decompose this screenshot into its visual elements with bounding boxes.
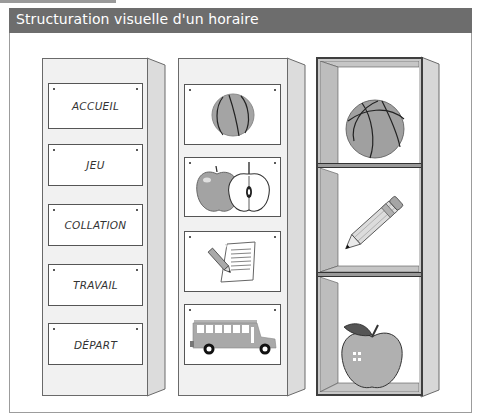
pin-dot [53, 209, 55, 211]
pin-dot [136, 209, 138, 211]
pin-dot [53, 149, 55, 151]
compartment-interior [320, 168, 419, 272]
word-card-collation[interactable]: COLLATION [48, 204, 143, 246]
card-label: DÉPART [49, 339, 142, 351]
picture-card-basketball[interactable] [184, 84, 281, 145]
pin-dot [136, 269, 138, 271]
picture-card-apple[interactable] [184, 157, 281, 217]
word-card-depart[interactable]: DÉPART [48, 323, 143, 365]
word-card-jeu[interactable]: JEU [48, 144, 143, 186]
pin-dot [53, 269, 55, 271]
picture-card-bus[interactable] [184, 304, 281, 365]
compartment-interior [320, 61, 419, 164]
pencil-paper-icon [185, 232, 282, 293]
card-label: TRAVAIL [49, 279, 142, 291]
basketball-icon [185, 85, 282, 146]
school-bus-icon [185, 305, 282, 366]
column-side-face [146, 57, 168, 399]
pin-dot [53, 88, 55, 90]
pin-dot [136, 88, 138, 90]
top-tab-strip [0, 0, 116, 3]
column-side-face [286, 57, 308, 399]
card-label: JEU [49, 159, 142, 171]
pin-dot [136, 328, 138, 330]
compartment-interior [320, 277, 419, 392]
card-label: COLLATION [49, 219, 142, 231]
figure-title: Structuration visuelle d'un horaire [16, 11, 259, 27]
basketball-icon [346, 100, 404, 158]
figure-header: Structuration visuelle d'un horaire [9, 8, 472, 33]
word-card-accueil[interactable]: ACCUEIL [48, 83, 143, 129]
picture-card-work[interactable] [184, 231, 281, 292]
word-card-travail[interactable]: TRAVAIL [48, 264, 143, 306]
pin-dot [136, 149, 138, 151]
pin-dot [53, 328, 55, 330]
apple-halves-icon [185, 158, 282, 218]
card-label: ACCUEIL [49, 100, 142, 112]
shelf-side-face [420, 56, 442, 400]
